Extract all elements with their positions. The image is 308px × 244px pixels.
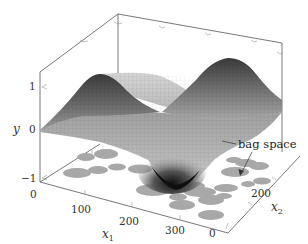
y-tick-neg1: −1 bbox=[21, 172, 36, 184]
surface-plot: bag space y 1 0 −1 0 100 200 300 x1 0 20… bbox=[0, 0, 308, 244]
y-tick-0: 0 bbox=[29, 123, 36, 135]
y-tick-1: 1 bbox=[29, 80, 36, 92]
x1-tick-200: 200 bbox=[119, 215, 139, 227]
annotation-text: bag space bbox=[238, 137, 297, 151]
x1-tick-100: 100 bbox=[71, 203, 91, 215]
x2-axis-label: x2 bbox=[271, 200, 283, 216]
x1-axis: 0 100 200 300 x1 bbox=[30, 188, 185, 243]
x1-axis-label: x1 bbox=[102, 227, 114, 243]
x2-tick-0: 0 bbox=[209, 227, 216, 239]
y-axis-label: y bbox=[12, 122, 20, 136]
x2-tick-200: 200 bbox=[251, 187, 271, 199]
x1-tick-0: 0 bbox=[30, 188, 37, 200]
y-axis: y 1 0 −1 bbox=[12, 80, 36, 184]
x1-tick-300: 300 bbox=[165, 224, 185, 236]
